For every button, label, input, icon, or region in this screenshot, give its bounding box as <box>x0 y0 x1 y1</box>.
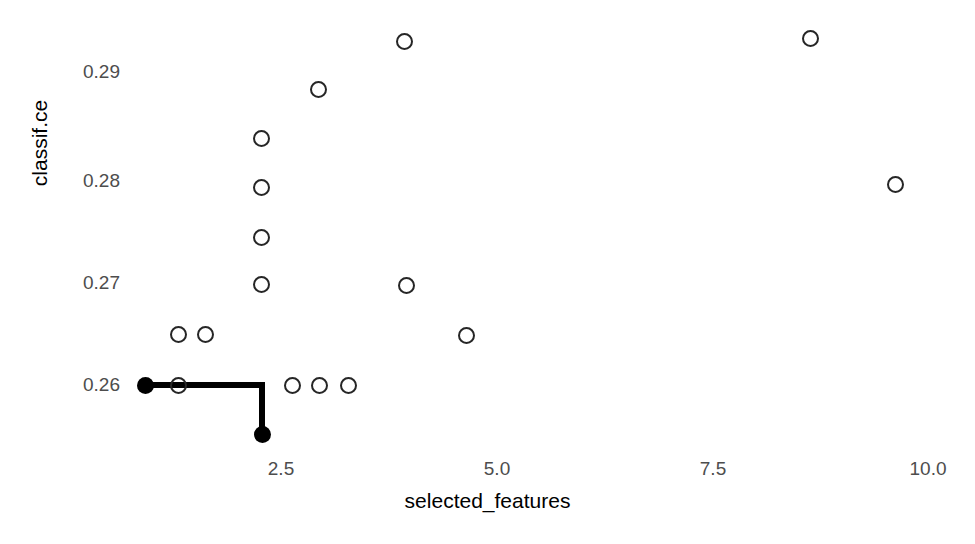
chart-figure: 0.29 0.28 0.27 0.26 2.5 5.0 7.5 10.0 <box>0 0 975 544</box>
data-point-filled <box>137 377 154 394</box>
data-point-filled <box>254 426 271 443</box>
data-point-open <box>311 377 328 394</box>
data-point-open <box>396 33 413 50</box>
xtick-label-7.5: 7.5 <box>668 459 758 478</box>
data-point-open <box>253 130 270 147</box>
data-point-open <box>398 277 415 294</box>
y-axis-label: classif.ce <box>28 100 51 186</box>
ytick-label-0.26: 0.26 <box>40 375 120 394</box>
data-point-open <box>170 326 187 343</box>
xtick-label-2.5: 2.5 <box>236 459 326 478</box>
data-point-open <box>253 276 270 293</box>
xtick-label-10.0: 10.0 <box>883 459 973 478</box>
data-point-open <box>253 229 270 246</box>
data-point-open <box>284 377 301 394</box>
data-point-open <box>802 30 819 47</box>
xtick-label-5.0: 5.0 <box>452 459 542 478</box>
data-point-open <box>197 326 214 343</box>
data-point-open <box>887 176 904 193</box>
y-axis-label-container: classif.ce <box>25 43 55 243</box>
ytick-label-0.27: 0.27 <box>40 273 120 292</box>
data-point-open <box>340 377 357 394</box>
data-point-open <box>458 327 475 344</box>
data-point-open <box>170 377 187 394</box>
data-point-open <box>253 179 270 196</box>
x-axis-label: selected_features <box>0 489 975 512</box>
plot-area: 0.29 0.28 0.27 0.26 2.5 5.0 7.5 10.0 <box>0 0 975 544</box>
data-point-open <box>310 81 327 98</box>
